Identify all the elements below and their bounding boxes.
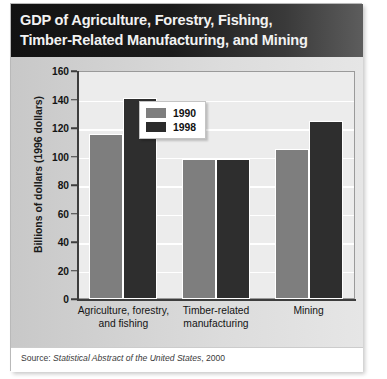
legend-label-1998: 1998 [173,122,196,133]
category-label-line: Mining [262,304,355,317]
bar-1990 [182,159,216,299]
bar-1990 [275,149,309,299]
x-axis-category-label: Agriculture, forestry,and fishing [77,304,170,330]
legend-label-1990: 1990 [173,108,196,119]
figure-title-banner: GDP of Agriculture, Forestry, Fishing, T… [11,4,363,57]
x-axis-line [77,299,356,301]
source-note: Source: Statistical Abstract of the Unit… [21,353,225,363]
y-axis-tick-label: 60 [33,208,69,219]
bar-group [275,71,343,299]
category-label-line: manufacturing [170,317,263,330]
chart-body: Billions of dollars (1996 dollars) 16014… [11,57,363,347]
figure-card: GDP of Agriculture, Forestry, Fishing, T… [10,3,362,371]
legend-swatch-1998 [146,122,166,132]
y-axis-tick-label: 160 [33,66,69,77]
source-prefix: Source: [21,353,51,363]
chart-legend: 1990 1998 [139,101,206,139]
legend-item-1998: 1998 [146,120,196,134]
figure-title-line-1: GDP of Agriculture, Forestry, Fishing, [20,10,363,30]
y-axis-tick-label: 40 [33,237,69,248]
bar-1998 [216,159,250,299]
bars-layer [77,71,355,299]
source-area: Source: Statistical Abstract of the Unit… [11,347,363,372]
legend-swatch-1990 [146,108,166,118]
legend-item-1990: 1990 [146,106,196,120]
bar-1998 [309,121,343,299]
x-axis-category-labels: Agriculture, forestry,and fishingTimber-… [77,304,355,344]
source-title: Statistical Abstract of the United State… [53,353,201,363]
x-axis-category-label: Timber-relatedmanufacturing [170,304,263,330]
category-label-line: Agriculture, forestry, [77,304,170,317]
y-axis-tick-label: 140 [33,94,69,105]
y-axis-tick-label: 0 [33,294,69,305]
figure-title-line-2: Timber-Related Manufacturing, and Mining [20,30,363,50]
bar-1990 [89,134,123,299]
source-year: , 2000 [201,353,225,363]
x-axis-category-label: Mining [262,304,355,317]
y-axis-tick-label: 20 [33,265,69,276]
category-label-line: and fishing [77,317,170,330]
category-label-line: Timber-related [170,304,263,317]
y-axis-tick-label: 80 [33,180,69,191]
y-axis-tick-label: 120 [33,123,69,134]
y-axis-tick-label: 100 [33,151,69,162]
